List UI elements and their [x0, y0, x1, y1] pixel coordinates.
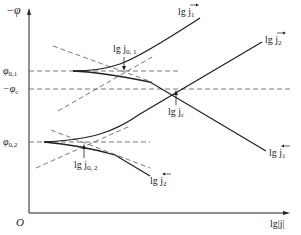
- curve-label-j1-forward-text: lg j: [178, 6, 191, 17]
- annotation-j01: lg j0, 1: [113, 44, 137, 56]
- curve-label-j1-forward-sub: 1: [191, 11, 195, 19]
- y-axis-label: −φ: [6, 4, 21, 16]
- j02-arrow-icon: [82, 144, 86, 149]
- annotation-jc-sub: c: [181, 111, 184, 119]
- curve-j2-forward: [44, 42, 262, 142]
- curve-label-j1-forward: lg j1: [178, 7, 195, 19]
- annotation-arrows: [82, 57, 178, 158]
- origin-label: O: [16, 217, 24, 228]
- x-axis-label: lg|j|: [270, 219, 285, 229]
- j01-arrow-icon: [122, 66, 126, 71]
- phi-c-symbol: −φ: [3, 83, 15, 94]
- annotation-j02: lg j0, 2: [74, 160, 98, 172]
- y-axis-arrow-icon: [27, 8, 31, 15]
- annotation-jc: lg jc: [168, 107, 184, 119]
- curve-label-j2-backward-text: lg j: [150, 175, 163, 186]
- tangent-lower-cathodic: [51, 130, 150, 168]
- polarization-curves: [44, 18, 266, 176]
- curve-label-j2-backward: lg j2: [150, 176, 167, 188]
- phi-c-subscript: c: [15, 88, 18, 96]
- annotation-j01-text: lg j: [113, 43, 126, 54]
- curve-label-j1-backward-sub: 1: [282, 152, 286, 160]
- annotation-j01-sub: 0, 1: [126, 48, 137, 56]
- curve-label-j1-backward: lg j1: [269, 148, 286, 160]
- phi-02-label: φ0,2: [3, 137, 17, 149]
- tangent-upper-cathodic: [53, 46, 152, 82]
- phi-02-subscript: 0,2: [9, 141, 18, 149]
- tangent-upper-anodic: [58, 57, 152, 111]
- level-lines: [29, 71, 290, 142]
- annotation-j02-sub: 0, 2: [87, 164, 98, 172]
- annotation-jc-text: lg j: [168, 106, 181, 117]
- curve-label-j1-backward-text: lg j: [269, 147, 282, 158]
- polarization-diagram: [0, 0, 301, 235]
- curve-label-j2-forward: lg j2: [265, 35, 282, 47]
- phi-c-label: −φc: [3, 84, 18, 96]
- curve-label-j2-forward-text: lg j: [265, 34, 278, 45]
- curve-label-j2-backward-sub: 2: [163, 180, 167, 188]
- x-axis-arrow-icon: [283, 211, 290, 215]
- annotation-j02-text: lg j: [74, 159, 87, 170]
- curve-label-j2-forward-sub: 2: [278, 39, 282, 47]
- phi-01-subscript: 0,1: [9, 70, 18, 78]
- phi-01-label: φ0,1: [3, 66, 17, 78]
